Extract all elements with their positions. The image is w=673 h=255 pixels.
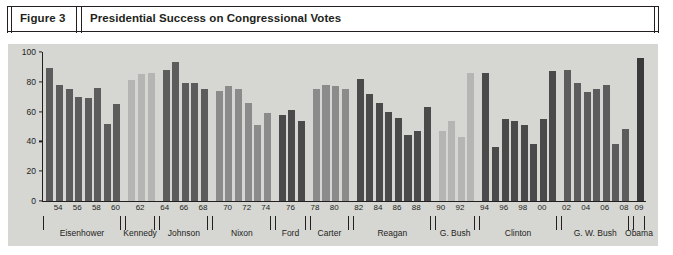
figure-header: Figure 3 Presidential Success on Congres… (8, 6, 658, 32)
x-tick-label: 62 (136, 203, 145, 212)
bar (593, 89, 600, 201)
bar (313, 89, 320, 201)
figure-number: Figure 3 (20, 12, 66, 24)
bar (113, 104, 120, 201)
bar (85, 98, 92, 201)
x-tick-label: 70 (223, 203, 232, 212)
bar (564, 70, 571, 201)
x-tick-label: 82 (354, 203, 363, 212)
president-label: Reagan (377, 228, 407, 238)
bar (163, 70, 170, 201)
figure-title: Presidential Success on Congressional Vo… (90, 12, 341, 24)
president-label: Obama (625, 228, 653, 238)
bar (254, 125, 261, 201)
header-divider (76, 6, 82, 33)
x-tick-label: 00 (537, 203, 546, 212)
y-tick-mark (39, 141, 42, 142)
bar (235, 89, 242, 201)
y-tick-label: 60 (12, 107, 36, 117)
x-tick-label: 84 (373, 203, 382, 212)
x-tick-label: 08 (619, 203, 628, 212)
x-tick-label: 80 (330, 203, 339, 212)
bar (574, 83, 581, 201)
x-tick-label: 68 (199, 203, 208, 212)
bar (395, 118, 402, 201)
bar (612, 144, 619, 201)
bar (264, 113, 271, 201)
president-label: Ford (282, 228, 299, 238)
y-tick-label: 100 (12, 47, 36, 57)
bar (584, 92, 591, 201)
bar (511, 121, 518, 201)
bar (448, 121, 455, 201)
president-label: Clinton (505, 228, 531, 238)
chart-panel: 020406080100 545658606264666870727476788… (8, 44, 658, 246)
plot-area: 020406080100 (42, 52, 646, 201)
y-tick-label: 0 (12, 196, 36, 206)
x-tick-label: 72 (242, 203, 251, 212)
x-tick-label: 88 (412, 203, 421, 212)
bar (75, 97, 82, 201)
y-tick-mark (39, 171, 42, 172)
x-tick-label: 74 (261, 203, 270, 212)
bar (404, 135, 411, 201)
bar (603, 85, 610, 201)
bar (549, 71, 556, 201)
bar (172, 62, 179, 201)
y-tick-mark (39, 81, 42, 82)
x-tick-label: 86 (393, 203, 402, 212)
president-label: Eisenhower (60, 228, 104, 238)
bar (191, 83, 198, 201)
bar (482, 73, 489, 201)
bar (458, 137, 465, 201)
bar (279, 115, 286, 201)
x-axis-labels: 5456586062646668707274767880828486889092… (42, 203, 646, 215)
bar (467, 73, 474, 201)
x-tick-label: 98 (518, 203, 527, 212)
y-tick-mark (39, 111, 42, 112)
x-tick-label: 04 (581, 203, 590, 212)
bar (225, 86, 232, 201)
bar (502, 119, 509, 201)
bar (245, 103, 252, 201)
bar (46, 68, 53, 201)
bar (424, 107, 431, 201)
bar (322, 85, 329, 201)
y-tick-label: 40 (12, 136, 36, 146)
bar (342, 89, 349, 201)
y-tick-label: 20 (12, 166, 36, 176)
bar-series (43, 52, 645, 201)
x-tick-label: 78 (311, 203, 320, 212)
x-tick-label: 54 (54, 203, 63, 212)
x-tick-label: 60 (111, 203, 120, 212)
bar (366, 94, 373, 201)
bar (540, 119, 547, 201)
president-label: Carter (318, 228, 342, 238)
president-label: Johnson (168, 228, 200, 238)
x-tick-label: 06 (600, 203, 609, 212)
x-tick-label: 96 (499, 203, 508, 212)
y-tick-mark (39, 51, 42, 52)
president-brackets: EisenhowerKennedyJohnsonNixonFordCarterR… (42, 216, 646, 240)
bar (94, 88, 101, 201)
bar (182, 83, 189, 201)
president-label: Kennedy (123, 228, 157, 238)
bar (385, 112, 392, 201)
bar (332, 86, 339, 201)
bar (376, 103, 383, 201)
bar (201, 89, 208, 201)
x-tick-label: 58 (92, 203, 101, 212)
bar (104, 124, 111, 201)
x-tick-label: 94 (480, 203, 489, 212)
x-tick-label: 64 (160, 203, 169, 212)
president-label: G. W. Bush (574, 228, 617, 238)
bar (66, 89, 73, 201)
bar (148, 73, 155, 201)
x-tick-label: 66 (179, 203, 188, 212)
bar (530, 144, 537, 201)
bar (637, 58, 644, 201)
bar (357, 79, 364, 201)
x-tick-label: 90 (436, 203, 445, 212)
bar (521, 125, 528, 201)
bar (298, 121, 305, 201)
